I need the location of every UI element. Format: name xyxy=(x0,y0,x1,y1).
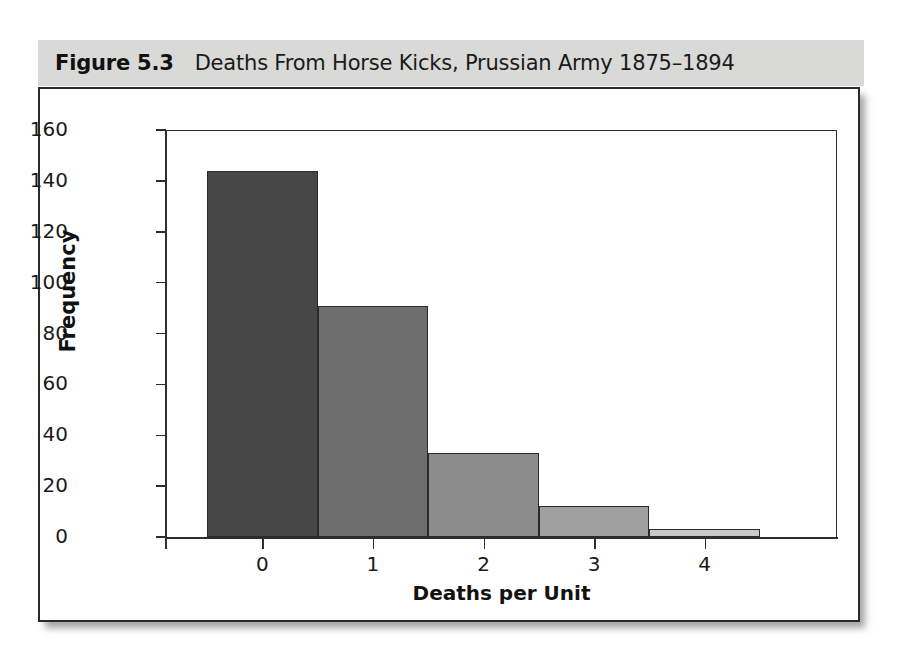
y-axis-tick xyxy=(156,180,166,182)
y-axis-tick xyxy=(156,384,166,386)
y-axis-tick xyxy=(156,282,166,284)
bar xyxy=(649,529,760,537)
y-axis-tick-label: 0 xyxy=(8,524,68,548)
bar xyxy=(318,306,429,537)
x-axis-tick-label: 0 xyxy=(232,552,292,576)
x-axis-tick-label: 3 xyxy=(564,552,624,576)
x-axis-line xyxy=(165,537,838,539)
figure-caption-band: Figure 5.3 Deaths From Horse Kicks, Prus… xyxy=(38,40,864,86)
figure-caption-label: Deaths From Horse Kicks, Prussian Army 1… xyxy=(195,51,735,75)
y-axis-tick-label: 40 xyxy=(8,422,68,446)
x-axis-title: Deaths per Unit xyxy=(165,581,838,605)
x-axis-tick xyxy=(484,538,486,549)
figure-plate: 020406080100120140160 01234 Frequency De… xyxy=(38,87,860,622)
y-axis-tick-label: 160 xyxy=(8,117,68,141)
y-axis-tick xyxy=(156,231,166,233)
y-axis-tick xyxy=(156,333,166,335)
bar xyxy=(428,453,539,537)
x-axis-tick-label: 2 xyxy=(454,552,514,576)
y-axis-title: Frequency xyxy=(56,171,80,411)
bar xyxy=(539,506,650,537)
x-axis-origin-tick xyxy=(165,538,167,549)
x-axis-tick xyxy=(373,538,375,549)
bar xyxy=(207,171,318,537)
y-axis-tick-label: 20 xyxy=(8,473,68,497)
figure-number-label: Figure 5.3 xyxy=(55,51,174,75)
y-axis-tick xyxy=(156,129,166,131)
figure-card: Figure 5.3 Deaths From Horse Kicks, Prus… xyxy=(38,40,864,626)
x-axis-tick-label: 1 xyxy=(343,552,403,576)
x-axis-tick xyxy=(262,538,264,549)
y-axis-tick xyxy=(156,485,166,487)
x-axis-tick xyxy=(594,538,596,549)
y-axis-tick xyxy=(156,435,166,437)
x-axis-tick xyxy=(705,538,707,549)
x-axis-tick-label: 4 xyxy=(675,552,735,576)
bar-chart-plot: 020406080100120140160 01234 Frequency De… xyxy=(40,89,862,620)
